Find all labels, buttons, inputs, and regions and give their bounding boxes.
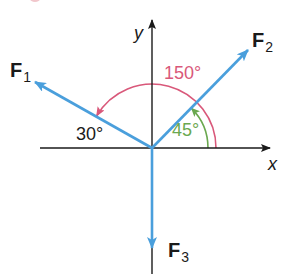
- f3-label-subscript: 3: [181, 249, 189, 265]
- y-axis-label: y: [134, 24, 143, 42]
- f1-label-main: F: [10, 59, 22, 81]
- f3-label-main: F: [168, 239, 180, 261]
- f1-label: F1: [10, 60, 31, 84]
- angle-label-150: 150°: [164, 64, 201, 82]
- angle-label-30: 30°: [76, 125, 103, 143]
- f2-label: F2: [252, 30, 273, 54]
- f3-label: F3: [168, 240, 189, 264]
- x-axis-label: x: [268, 155, 277, 173]
- f2-label-main: F: [252, 29, 264, 51]
- f1-label-subscript: 1: [23, 69, 31, 85]
- force-diagram: [0, 0, 291, 280]
- f2-label-subscript: 2: [265, 39, 273, 55]
- angle-label-45: 45°: [172, 121, 199, 139]
